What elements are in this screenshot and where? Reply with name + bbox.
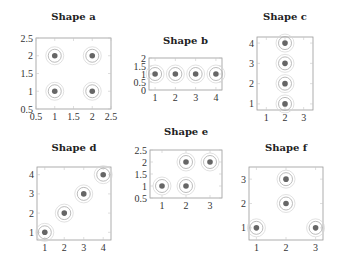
data-point xyxy=(177,177,195,195)
data-point xyxy=(276,54,294,72)
data-point xyxy=(166,65,184,83)
x-tick-label: 3 xyxy=(313,242,318,253)
point-marker xyxy=(193,71,199,77)
y-tick-label: 1 xyxy=(28,86,33,97)
point-marker xyxy=(52,53,58,59)
point-marker xyxy=(282,61,288,67)
data-point xyxy=(201,153,219,171)
data-point xyxy=(277,195,295,213)
y-tick-label: 2 xyxy=(142,157,147,168)
x-tick-label: 2.5 xyxy=(105,111,118,122)
data-point xyxy=(94,166,112,184)
data-point xyxy=(187,65,205,83)
data-point xyxy=(276,34,294,52)
subplot-title: Shape d xyxy=(52,142,97,153)
data-point xyxy=(146,65,164,83)
axes-frame xyxy=(150,150,222,198)
y-tick-label: 0.5 xyxy=(135,193,148,204)
x-tick-label: 3 xyxy=(301,112,306,123)
data-point xyxy=(75,185,93,203)
x-tick-label: 2 xyxy=(173,92,178,103)
data-point xyxy=(247,219,265,237)
x-tick-label: 3 xyxy=(208,200,213,211)
y-tick-label: 3 xyxy=(29,188,34,199)
data-point xyxy=(207,65,225,83)
x-tick-label: 2 xyxy=(283,112,288,123)
x-tick-label: 1 xyxy=(160,200,165,211)
subplot-title: Shape c xyxy=(263,11,307,22)
subplot-f: Shape f123123 xyxy=(241,142,325,253)
x-tick-label: 1 xyxy=(153,92,158,103)
x-tick-label: 4 xyxy=(101,242,106,253)
point-marker xyxy=(183,159,189,165)
x-tick-label: 2 xyxy=(184,200,189,211)
y-tick-label: 2.5 xyxy=(135,145,148,156)
point-marker xyxy=(173,71,179,77)
point-marker xyxy=(152,71,158,77)
y-tick-label: 1.5 xyxy=(135,169,148,180)
point-marker xyxy=(159,183,165,189)
y-tick-label: 1 xyxy=(249,98,254,109)
y-tick-label: 4 xyxy=(249,38,254,49)
point-marker xyxy=(207,159,213,165)
axes-frame xyxy=(37,167,111,240)
axes-frame xyxy=(149,58,222,90)
subplot-title: Shape a xyxy=(51,11,96,22)
point-marker xyxy=(52,88,58,94)
x-tick-label: 3 xyxy=(193,92,198,103)
data-point xyxy=(307,219,325,237)
y-tick-label: 2 xyxy=(141,53,146,64)
point-marker xyxy=(283,176,289,182)
y-tick-label: 1 xyxy=(142,181,147,192)
y-tick-label: 3 xyxy=(249,58,254,69)
x-tick-label: 1.5 xyxy=(67,111,80,122)
point-marker xyxy=(100,172,106,178)
y-tick-label: 2 xyxy=(28,50,33,61)
shapes-figure: Shape a0.511.522.50.511.522.5Shape b1234… xyxy=(0,0,339,270)
subplot-b: Shape b123400.511.52 xyxy=(134,35,225,103)
axes-frame xyxy=(257,37,313,110)
subplot-title: Shape b xyxy=(163,35,208,46)
y-tick-label: 1 xyxy=(241,222,246,233)
y-tick-label: 0.5 xyxy=(21,104,34,115)
data-point xyxy=(276,75,294,93)
x-tick-label: 1 xyxy=(42,242,47,253)
point-marker xyxy=(282,81,288,87)
data-point xyxy=(46,82,64,100)
data-point xyxy=(276,95,294,113)
subplot-e: Shape e1230.511.522.5 xyxy=(135,126,223,211)
point-marker xyxy=(89,88,95,94)
x-tick-label: 2 xyxy=(62,242,67,253)
point-marker xyxy=(61,210,67,216)
data-point xyxy=(177,153,195,171)
data-point xyxy=(83,47,101,65)
point-marker xyxy=(213,71,219,77)
subplot-d: Shape d12341234 xyxy=(29,142,112,253)
data-point xyxy=(36,223,54,241)
subplot-title: Shape e xyxy=(164,126,208,137)
y-tick-label: 4 xyxy=(29,169,34,180)
y-tick-label: 3 xyxy=(241,174,246,185)
y-tick-label: 2 xyxy=(249,78,254,89)
y-tick-label: 2 xyxy=(241,198,246,209)
axes-frame xyxy=(36,38,111,109)
x-tick-label: 1 xyxy=(254,242,259,253)
x-tick-label: 1 xyxy=(264,112,269,123)
subplot-c: Shape c1231234 xyxy=(249,11,313,123)
y-tick-label: 2.5 xyxy=(21,33,34,44)
y-tick-label: 2 xyxy=(29,208,34,219)
point-marker xyxy=(81,191,87,197)
data-point xyxy=(277,170,295,188)
x-tick-label: 1 xyxy=(52,111,57,122)
point-marker xyxy=(183,183,189,189)
y-tick-label: 1 xyxy=(29,227,34,238)
subplot-a: Shape a0.511.522.50.511.522.5 xyxy=(21,11,118,122)
point-marker xyxy=(89,53,95,59)
data-point xyxy=(153,177,171,195)
data-point xyxy=(83,82,101,100)
x-tick-label: 2 xyxy=(90,111,95,122)
x-tick-label: 2 xyxy=(284,242,289,253)
data-point xyxy=(46,47,64,65)
point-marker xyxy=(283,201,289,207)
x-tick-label: 3 xyxy=(81,242,86,253)
